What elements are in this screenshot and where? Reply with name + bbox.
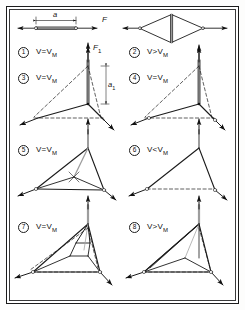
panel-7-marker: 7 (18, 222, 29, 233)
panel-4-number: 4 (129, 73, 140, 84)
panel-3-condition-sub: M (52, 78, 57, 84)
panel-7-number: 7 (18, 222, 29, 233)
force-label-F1: F1 (93, 44, 101, 54)
panel-8-marker: 8 (129, 222, 140, 233)
panel-6-condition-sub: M (163, 150, 168, 156)
panel-8-condition: V>VM (147, 223, 168, 233)
panel-6-marker: 6 (129, 145, 140, 156)
panel-7-condition: V=VM (36, 223, 57, 233)
panel-1-condition-sub: M (52, 52, 57, 58)
figure-root: a F 1 V=VM F1 2 V>VM 3 V=VM a1 4 V=VM 5 … (0, 0, 245, 310)
panel-5-condition: V=VM (36, 146, 57, 156)
panel-7-artwork (15, 196, 112, 285)
panel-1-condition-text: V=V (36, 47, 52, 56)
panel-8-condition-sub: M (163, 227, 168, 233)
panel-6-condition-text: V<V (147, 145, 163, 154)
panel-3-marker: 3 (18, 73, 29, 84)
top-left-bar-diagram (18, 17, 97, 30)
panel-1-marker: 1 (18, 47, 29, 58)
panel-5-condition-text: V=V (36, 145, 52, 154)
panel-3-number: 3 (18, 73, 29, 84)
top-right-rhombus-diagram (123, 15, 227, 43)
panel-8-condition-text: V>V (147, 222, 163, 231)
panel-2-number: 2 (129, 47, 140, 58)
dimension-label-a: a (53, 11, 57, 19)
panel-5-condition-sub: M (52, 150, 57, 156)
panel-3-condition: V=VM (36, 74, 57, 84)
panel-2-condition-text: V>V (147, 47, 163, 56)
panel-7-condition-text: V=V (36, 222, 52, 231)
panel-1-number: 1 (18, 47, 29, 58)
panel-5-marker: 5 (18, 145, 29, 156)
panel-4-marker: 4 (129, 73, 140, 84)
panel-4-artwork (131, 47, 225, 130)
dimension-label-a1: a1 (108, 81, 115, 91)
panel-4-condition-sub: M (163, 78, 168, 84)
panel-7-condition-sub: M (52, 227, 57, 233)
force-F1-sub: 1 (98, 48, 101, 54)
panel-2-marker: 2 (129, 47, 140, 58)
dimension-a1-sub: 1 (112, 85, 115, 91)
panel-6-number: 6 (129, 145, 140, 156)
panel-8-artwork (126, 196, 223, 285)
panel-1-condition: V=VM (36, 48, 57, 58)
panel-4-condition-text: V=V (147, 73, 163, 82)
force-label-F: F (102, 16, 107, 24)
panel-3-artwork (20, 47, 114, 130)
panel-8-number: 8 (129, 222, 140, 233)
panel-3-condition-text: V=V (36, 73, 52, 82)
panel-4-condition: V=VM (147, 74, 168, 84)
panel-2-condition: V>VM (147, 48, 168, 58)
panel-6-artwork (129, 119, 227, 200)
panel-2-condition-sub: M (163, 52, 168, 58)
panel-6-condition: V<VM (147, 146, 168, 156)
panel-5-artwork (18, 119, 116, 200)
panel-5-number: 5 (18, 145, 29, 156)
